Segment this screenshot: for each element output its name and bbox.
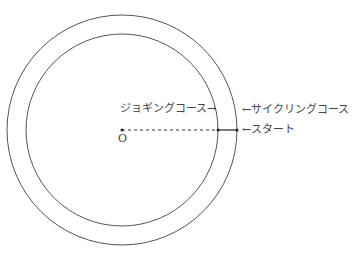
course-diagram: [0, 0, 352, 257]
cycling-course-label: ←サイクリングコース: [242, 104, 349, 116]
center-label: O: [118, 133, 127, 145]
start-point-inner: [217, 129, 220, 132]
jogging-course-label: ジョギングコース→: [120, 103, 216, 115]
start-point-outer: [236, 129, 239, 132]
start-label: ←スタート: [242, 124, 295, 136]
